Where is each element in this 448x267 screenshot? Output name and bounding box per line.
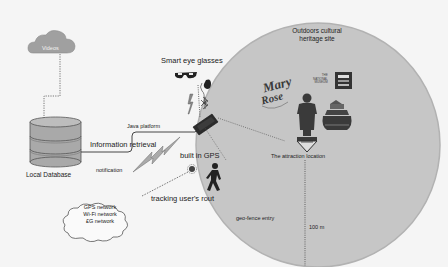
java-platform-label: Java platform bbox=[127, 123, 160, 129]
national-museum-logo-icon bbox=[335, 72, 352, 89]
database-label: Local Database bbox=[26, 171, 71, 178]
site-title-line2: heritage site bbox=[272, 35, 362, 43]
national-museum-logo-text: THENATIONALMUSEUM bbox=[313, 74, 328, 85]
wireless-signal-icon bbox=[188, 94, 193, 114]
notification-label: notification bbox=[96, 167, 122, 173]
videos-cloud-label: Videos bbox=[42, 45, 59, 51]
network-cloud-text: GPS network Wi-Fi network £G network bbox=[70, 204, 130, 225]
diagram-graphics: Mary Rose bbox=[0, 0, 448, 267]
site-title-line1: Outdoors cultural bbox=[272, 27, 362, 35]
network-line-wifi: Wi-Fi network bbox=[70, 211, 130, 218]
built-in-gps-label: built in GPS bbox=[180, 152, 220, 160]
heritage-site-circle bbox=[196, 23, 440, 267]
diagram-canvas: Mary Rose Videos Local Database Smart ey… bbox=[0, 0, 448, 267]
smart-glasses-label: Smart eye glasses bbox=[161, 57, 223, 65]
network-line-cellular: £G network bbox=[70, 218, 130, 225]
information-retrieval-label: Information retrieval bbox=[90, 141, 156, 149]
network-line-gps: GPS network bbox=[70, 204, 130, 211]
geofence-entry-label: geo-fence entry bbox=[236, 215, 274, 221]
site-title: Outdoors cultural heritage site bbox=[272, 27, 362, 43]
gps-icon bbox=[188, 165, 197, 174]
radius-label: 100 m bbox=[309, 224, 324, 230]
attraction-location-label: The attraction location bbox=[271, 153, 325, 159]
database-icon bbox=[30, 117, 81, 167]
tracking-label: tracking user's rout bbox=[151, 195, 214, 203]
cloud-db-link bbox=[44, 54, 60, 120]
